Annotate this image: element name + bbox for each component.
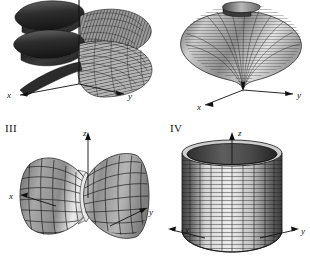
panel-label-four: IV [170, 122, 182, 134]
panel-helicoid: x y [0, 0, 155, 120]
panel1-x-axis-label: x [6, 90, 11, 100]
helicoid-lower-sheet [78, 38, 152, 97]
panel3-y-axis-label: y [148, 207, 153, 217]
four-panel-surface-figure: x y [0, 0, 310, 268]
panel1-y-axis-label: y [127, 91, 132, 101]
hyperboloid-right-lobe [84, 152, 151, 241]
helicoid-lower-blade [20, 62, 82, 96]
cone-surface-body [155, 0, 310, 120]
helicoid-middle-blade [14, 30, 85, 66]
panel-label-three: III [5, 122, 17, 134]
panel4-z-axis-label: z [237, 128, 242, 138]
panel3-x-axis-label: x [8, 191, 13, 201]
panel4-y-axis-label: y [300, 226, 305, 236]
panel-cylinder: z x y [155, 120, 310, 268]
panel2-x-axis-label: x [196, 102, 201, 112]
panel2-axes [205, 90, 293, 107]
panel4-x-axis-label: x [184, 225, 189, 235]
panel-cone-surface: x y [155, 0, 310, 120]
panel2-y-axis-label: y [296, 90, 301, 100]
panel3-z-axis-label: z [82, 128, 87, 138]
panel-hyperboloid: z x y [0, 120, 155, 268]
